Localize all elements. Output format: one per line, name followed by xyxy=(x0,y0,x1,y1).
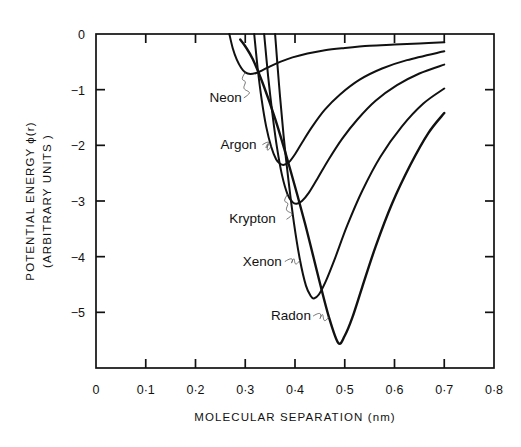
tick-labels: 00·10·20·30·40·50·60·70·80−1−2−3−4−5 xyxy=(71,28,503,397)
curve-krypton xyxy=(264,34,444,204)
axis-titles: MOLECULAR SEPARATION (nm)POTENTIAL ENERG… xyxy=(24,121,396,423)
leader-line-xenon xyxy=(285,259,300,264)
y-axis-title-line2: (ARBITRARY UNITS ) xyxy=(41,134,53,268)
x-tick-label: 0·2 xyxy=(186,383,204,397)
x-tick-label: 0·7 xyxy=(435,383,453,397)
series-label-radon: Radon xyxy=(271,308,311,323)
series-label-xenon: Xenon xyxy=(243,254,282,269)
y-axis-title-line1: POTENTIAL ENERGY ϕ(r) xyxy=(24,121,36,280)
curve-neon xyxy=(229,34,444,74)
y-tick-label: −4 xyxy=(71,251,85,265)
potential-energy-figure: 00·10·20·30·40·50·60·70·80−1−2−3−4−5 Neo… xyxy=(0,0,521,447)
curve-series xyxy=(229,34,444,344)
chart-canvas: 00·10·20·30·40·50·60·70·80−1−2−3−4−5 Neo… xyxy=(0,0,521,447)
y-tick-label: −2 xyxy=(71,139,85,153)
series-label-neon: Neon xyxy=(209,90,241,105)
curve-radon xyxy=(240,40,444,344)
y-tick-label: −5 xyxy=(71,306,85,320)
x-tick-label: 0·4 xyxy=(286,383,304,397)
series-label-argon: Argon xyxy=(220,137,256,152)
x-tick-label: 0·1 xyxy=(137,383,155,397)
y-tick-label: 0 xyxy=(78,28,85,42)
x-tick-label: 0·8 xyxy=(485,383,503,397)
x-tick-label: 0·3 xyxy=(236,383,254,397)
x-tick-label: 0·6 xyxy=(385,383,403,397)
series-annotations: NeonArgonKryptonXenonRadon xyxy=(209,72,328,323)
series-label-krypton: Krypton xyxy=(229,211,276,226)
x-tick-label: 0·5 xyxy=(336,383,354,397)
x-tick-label: 0 xyxy=(93,383,100,397)
y-tick-label: −1 xyxy=(71,84,85,98)
x-axis-title: MOLECULAR SEPARATION (nm) xyxy=(194,411,396,423)
y-tick-label: −3 xyxy=(71,195,85,209)
leader-line-radon xyxy=(313,313,329,320)
leader-line-neon xyxy=(242,72,249,98)
